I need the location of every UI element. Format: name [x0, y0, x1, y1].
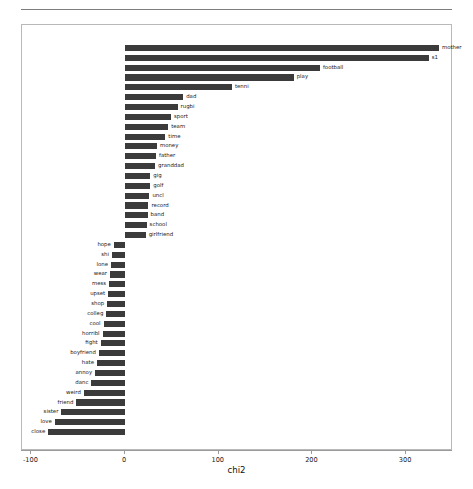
- bar-label: mother: [442, 45, 462, 50]
- bar-label: tenni: [235, 85, 249, 90]
- bar-row: friend: [22, 399, 453, 405]
- bar-label: annoy: [75, 370, 92, 375]
- bar-label: dad: [186, 94, 196, 99]
- bar-label: s1: [432, 55, 438, 60]
- bar-row: close: [22, 429, 453, 435]
- bar-row: horribl: [22, 331, 453, 337]
- bar-row: mess: [22, 281, 453, 287]
- bar-row: boyfriend: [22, 350, 453, 356]
- bar-rect: [84, 390, 125, 396]
- bar-label: shi: [101, 252, 109, 257]
- bar-label: weird: [66, 390, 81, 395]
- bar-row: record: [22, 202, 453, 208]
- bar-row: danc: [22, 380, 453, 386]
- bar-label: fight: [85, 341, 97, 346]
- bar-label: shop: [91, 301, 104, 306]
- x-axis-line: -1000100200300: [21, 450, 452, 451]
- plot-area-frame: mothers1footballplaytennidadrugbisportte…: [21, 24, 452, 450]
- bar-rect: [125, 65, 320, 71]
- bar-label: sister: [44, 410, 59, 415]
- bar-label: sport: [174, 114, 188, 119]
- bar-label: school: [150, 223, 167, 228]
- bar-rect: [91, 380, 125, 386]
- bar-rect: [107, 301, 125, 307]
- bar-rect: [104, 321, 126, 327]
- bar-row: annoy: [22, 370, 453, 376]
- bar-rect: [111, 262, 125, 268]
- x-axis-tick-label: 300: [399, 456, 412, 464]
- bar-label: gig: [153, 173, 161, 178]
- bar-row: lone: [22, 262, 453, 268]
- bar-row: rugbi: [22, 104, 453, 110]
- bar-label: record: [151, 203, 168, 208]
- bar-row: shop: [22, 301, 453, 307]
- bar-label: cool: [89, 321, 100, 326]
- bar-row: dad: [22, 94, 453, 100]
- bar-rect: [125, 114, 171, 120]
- bars-layer: mothers1footballplaytennidadrugbisportte…: [22, 25, 451, 449]
- bar-rect: [108, 291, 125, 297]
- bar-label: close: [31, 429, 45, 434]
- bar-rect: [76, 399, 125, 405]
- bar-rect: [125, 153, 156, 159]
- bar-label: time: [168, 134, 180, 139]
- bar-rect: [125, 84, 232, 90]
- bar-row: granddad: [22, 163, 453, 169]
- bar-rect: [110, 271, 125, 277]
- bar-rect: [114, 242, 125, 248]
- bar-rect: [112, 252, 125, 258]
- bar-row: father: [22, 153, 453, 159]
- bar-row: wear: [22, 271, 453, 277]
- bar-label: friend: [58, 400, 74, 405]
- bar-row: gig: [22, 173, 453, 179]
- bar-rect: [101, 340, 125, 346]
- bar-label: granddad: [158, 163, 184, 168]
- bar-label: boyfriend: [70, 351, 96, 356]
- bar-rect: [61, 409, 125, 415]
- bar-rect: [106, 311, 125, 317]
- bar-rect: [125, 222, 147, 228]
- bar-row: weird: [22, 390, 453, 396]
- x-axis-tick: [311, 450, 312, 454]
- bar-label: horribl: [82, 331, 99, 336]
- bar-row: time: [22, 134, 453, 140]
- bar-label: play: [297, 75, 308, 80]
- bar-row: school: [22, 222, 453, 228]
- bar-row: team: [22, 124, 453, 130]
- bar-row: play: [22, 74, 453, 80]
- x-axis-tick-label: 200: [305, 456, 318, 464]
- header-divider-rule: [21, 9, 452, 10]
- bar-rect: [125, 183, 150, 189]
- bar-rect: [125, 202, 148, 208]
- bar-rect: [95, 370, 125, 376]
- bar-label: uncl: [152, 193, 163, 198]
- bar-row: upset: [22, 291, 453, 297]
- bar-rect: [99, 350, 125, 356]
- x-axis-tick: [124, 450, 125, 454]
- bar-rect: [125, 163, 155, 169]
- bar-rect: [103, 331, 125, 337]
- bar-label: wear: [94, 272, 107, 277]
- x-axis-title: chi2: [0, 465, 473, 475]
- bar-label: upset: [90, 291, 105, 296]
- bar-rect: [125, 55, 429, 61]
- bar-label: golf: [153, 183, 163, 188]
- bar-label: danc: [75, 380, 88, 385]
- bar-row: sister: [22, 409, 453, 415]
- bar-row: shi: [22, 252, 453, 258]
- bar-rect: [109, 281, 125, 287]
- bar-rect: [125, 193, 149, 199]
- bar-label: football: [323, 65, 343, 70]
- bar-label: mess: [92, 282, 106, 287]
- bar-rect: [48, 429, 125, 435]
- x-axis-tick: [405, 450, 406, 454]
- bar-label: lone: [96, 262, 108, 267]
- bar-row: tenni: [22, 84, 453, 90]
- x-axis-tick-label: 100: [211, 456, 224, 464]
- bar-row: uncl: [22, 193, 453, 199]
- bar-row: colleg: [22, 311, 453, 317]
- bar-row: band: [22, 212, 453, 218]
- bar-rect: [125, 94, 183, 100]
- bar-label: band: [151, 213, 165, 218]
- bar-label: girlfriend: [149, 232, 173, 237]
